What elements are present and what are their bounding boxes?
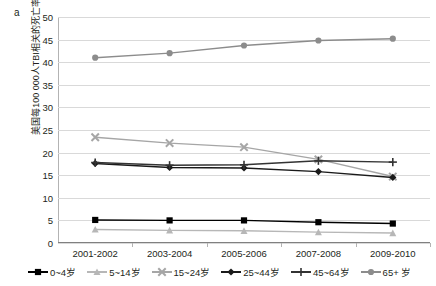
x-tick-label: 2003-2004 bbox=[147, 248, 192, 259]
y-tick-label: 40 bbox=[42, 57, 53, 68]
x-tick-mark bbox=[132, 243, 133, 247]
legend-item[interactable]: 15~24岁 bbox=[152, 265, 211, 279]
y-tick-label: 45 bbox=[42, 34, 53, 45]
legend-marker-plus-icon bbox=[291, 267, 311, 277]
data-point-cross-x bbox=[158, 268, 165, 275]
y-tick-label: 20 bbox=[42, 147, 53, 158]
data-point-diamond bbox=[315, 168, 322, 175]
data-point-square bbox=[390, 220, 396, 226]
data-point-circle bbox=[167, 50, 173, 56]
data-point-circle bbox=[241, 42, 247, 48]
x-tick-label: 2001-2002 bbox=[72, 248, 117, 259]
plot-area: 05101520253035404550 2001-20022003-20042… bbox=[58, 17, 430, 243]
legend-label: 65+ 岁 bbox=[383, 265, 412, 279]
legend-marker-square-icon bbox=[28, 267, 48, 277]
data-point-square bbox=[167, 217, 173, 223]
legend-item[interactable]: 25~44岁 bbox=[221, 265, 280, 279]
legend-label: 15~24岁 bbox=[174, 265, 211, 279]
legend-marker-circle-icon bbox=[361, 267, 381, 277]
y-axis-label: 美国每100 000人TBI相关的死亡率 bbox=[29, 0, 42, 162]
legend-label: 45~64岁 bbox=[313, 265, 350, 279]
y-tick-label: 35 bbox=[42, 79, 53, 90]
data-point-plus bbox=[297, 268, 305, 276]
x-tick-mark bbox=[207, 243, 208, 247]
figure-panel-a: a 美国每100 000人TBI相关的死亡率 05101520253035404… bbox=[0, 0, 436, 286]
x-tick-mark bbox=[356, 243, 357, 247]
data-point-square bbox=[241, 217, 247, 223]
gridline bbox=[58, 243, 430, 244]
data-point-circle bbox=[92, 55, 98, 61]
y-tick-label: 50 bbox=[42, 12, 53, 23]
legend-label: 25~44岁 bbox=[243, 265, 280, 279]
legend: 0~4岁5~14岁15~24岁25~44岁45~64岁65+ 岁 bbox=[28, 264, 418, 280]
data-point-triangle bbox=[94, 269, 101, 276]
y-tick-label: 0 bbox=[48, 238, 53, 249]
legend-label: 5~14岁 bbox=[109, 265, 140, 279]
legend-item[interactable]: 45~64岁 bbox=[291, 265, 350, 279]
x-tick-mark bbox=[281, 243, 282, 247]
y-tick-label: 15 bbox=[42, 170, 53, 181]
data-point-diamond bbox=[228, 268, 235, 275]
panel-label: a bbox=[14, 7, 20, 18]
legend-item[interactable]: 65+ 岁 bbox=[361, 265, 412, 279]
legend-item[interactable]: 5~14岁 bbox=[87, 265, 140, 279]
data-point-square bbox=[315, 219, 321, 225]
y-tick-label: 10 bbox=[42, 192, 53, 203]
data-point-circle bbox=[390, 36, 396, 42]
y-tick-label: 25 bbox=[42, 125, 53, 136]
data-point-square bbox=[35, 269, 41, 275]
data-point-plus bbox=[389, 158, 397, 166]
x-tick-mark bbox=[430, 243, 431, 247]
data-point-circle bbox=[367, 269, 373, 275]
y-tick-label: 30 bbox=[42, 102, 53, 113]
data-point-square bbox=[92, 217, 98, 223]
legend-item[interactable]: 0~4岁 bbox=[28, 265, 76, 279]
x-tick-label: 2007-2008 bbox=[296, 248, 341, 259]
legend-label: 0~4岁 bbox=[50, 265, 76, 279]
y-tick-label: 5 bbox=[48, 215, 53, 226]
series-lines bbox=[58, 17, 430, 243]
x-tick-label: 2005-2006 bbox=[221, 248, 266, 259]
legend-marker-triangle-icon bbox=[87, 267, 107, 277]
data-point-circle bbox=[315, 37, 321, 43]
x-tick-label: 2009-2010 bbox=[370, 248, 415, 259]
data-point-plus bbox=[91, 158, 99, 166]
legend-marker-cross-x-icon bbox=[152, 267, 172, 277]
legend-marker-diamond-icon bbox=[221, 267, 241, 277]
